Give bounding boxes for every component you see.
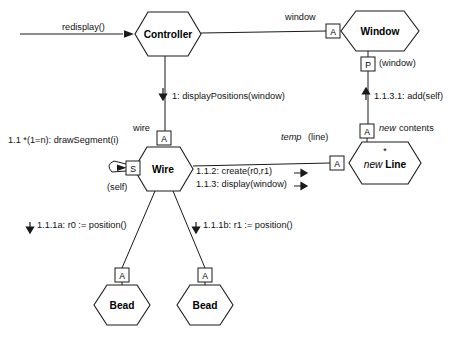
node-label-window: Window bbox=[361, 26, 400, 37]
label-line-temp-type: (line) bbox=[308, 133, 328, 143]
node-label-wire: Wire bbox=[152, 164, 174, 175]
label-new-contents-prefix: new bbox=[379, 124, 396, 134]
role-letter-window-p: P bbox=[365, 60, 371, 70]
label-redisplay-message: redisplay() bbox=[62, 23, 105, 33]
wire-beadright-association bbox=[173, 191, 205, 268]
role-letter-bead-right-a: A bbox=[202, 271, 208, 281]
arrow-down-msg-111a bbox=[26, 222, 33, 233]
label-wire-self: (self) bbox=[107, 183, 127, 193]
label-message-112: 1.1.2: create(r0,r1) bbox=[196, 167, 272, 177]
role-letter-wire-a: A bbox=[161, 134, 167, 144]
label-message-1131: 1.1.3.1: add(self) bbox=[374, 92, 443, 102]
label-message-111a: 1.1.1a: r0 := position() bbox=[37, 221, 127, 231]
role-letter-line-a-top: A bbox=[364, 127, 370, 137]
arrow-right-msg-113 bbox=[294, 183, 307, 190]
arrow-up-msg-1131 bbox=[362, 88, 369, 100]
label-message-113: 1.1.3: display(window) bbox=[196, 180, 287, 190]
label-message-1: 1: displayPositions(window) bbox=[172, 92, 285, 102]
label-window-parameter: (window) bbox=[379, 59, 416, 69]
uml-collaboration-diagram: Controller Window Wire new Line Bead Bea… bbox=[0, 0, 456, 338]
wire-self-loop-arrowhead bbox=[117, 164, 127, 171]
node-label-bead-left: Bead bbox=[110, 300, 135, 311]
role-letter-window-a: A bbox=[330, 27, 336, 37]
line-multiplicity-star: * bbox=[383, 146, 387, 156]
label-window-role: window bbox=[285, 13, 316, 23]
label-wire-role: wire bbox=[133, 124, 150, 134]
node-label-controller: Controller bbox=[144, 29, 193, 40]
node-label-new-line-name: Line bbox=[385, 159, 406, 170]
arrow-down-msg-111b bbox=[192, 222, 199, 233]
message-arrow-group bbox=[26, 88, 369, 233]
node-label-bead-right: Bead bbox=[193, 300, 218, 311]
role-letter-line-a-left: A bbox=[334, 159, 340, 169]
node-label-new-line-prefix: new bbox=[364, 159, 386, 170]
label-message-111b: 1.1.1b: r1 := position() bbox=[203, 221, 293, 231]
role-letter-bead-left-a: A bbox=[119, 271, 125, 281]
arrow-down-msg-1 bbox=[159, 88, 166, 100]
label-new-contents-role: contents bbox=[399, 124, 434, 134]
label-line-temp: temp bbox=[281, 133, 301, 143]
node-label-new-line: new Line bbox=[364, 159, 406, 170]
wire-beadleft-association bbox=[122, 191, 155, 268]
redisplay-arrowhead bbox=[124, 30, 134, 38]
label-message-11: 1.1 *(1=n): drawSegment(i) bbox=[8, 136, 119, 146]
controller-window-line bbox=[201, 31, 326, 33]
arrow-right-msg-112 bbox=[294, 170, 307, 177]
role-letter-wire-s: S bbox=[130, 164, 136, 174]
